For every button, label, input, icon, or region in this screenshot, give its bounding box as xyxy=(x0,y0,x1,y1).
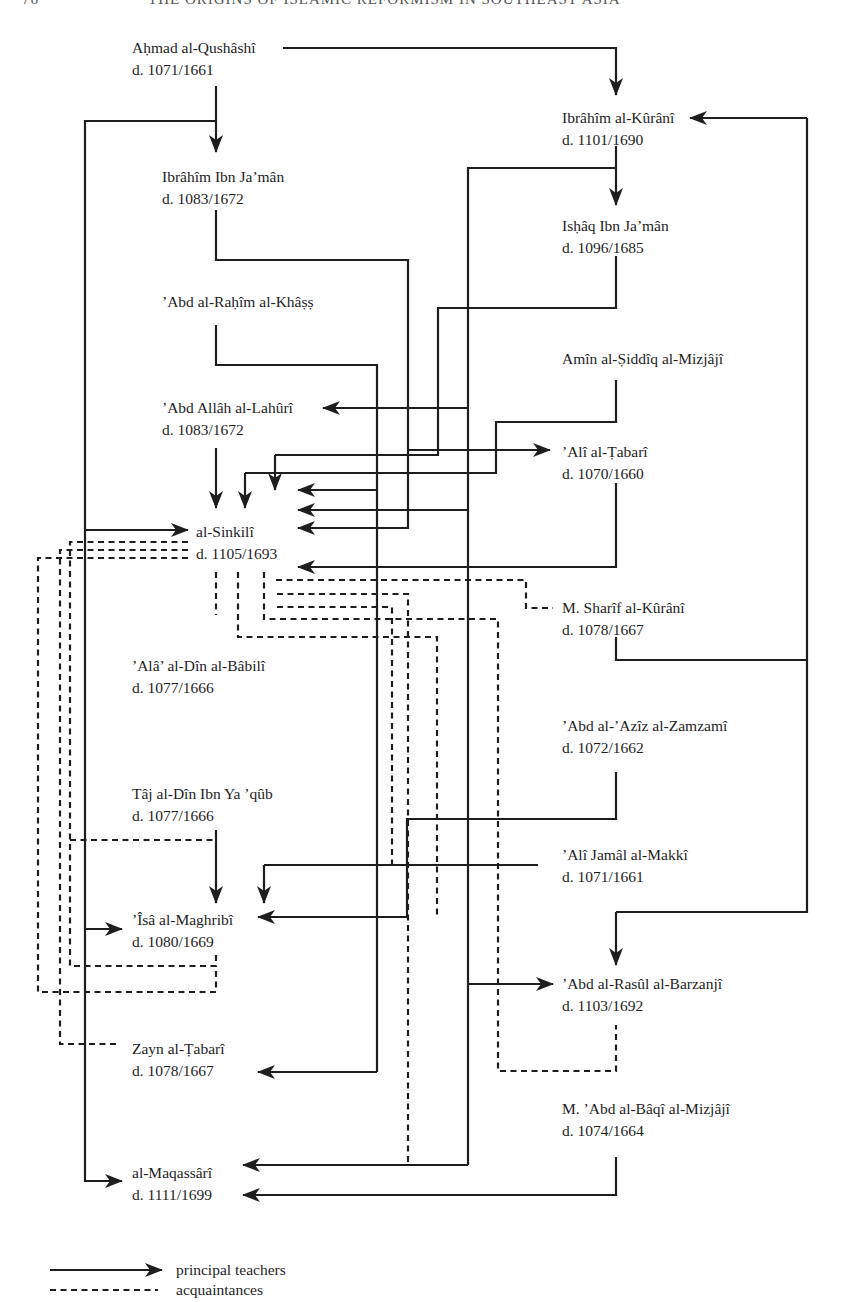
node-ibrahim-kurani: Ibrâhîm al-Kûrânî d. 1101/1690 xyxy=(562,109,675,148)
node-amin-mizjaji: Amîn al-Ṣiddîq al-Mizjâjî xyxy=(562,350,724,367)
node-death-date: d. 1071/1661 xyxy=(132,61,214,78)
node-name: ’Abd al-Raḥîm al-Khâṣṣ xyxy=(162,293,314,310)
link-qushashi-kurani xyxy=(283,48,616,95)
node-death-date: d. 1074/1664 xyxy=(562,1122,644,1139)
node-name: al-Sinkilî xyxy=(196,523,254,540)
link-amin-sinkili xyxy=(245,380,616,473)
node-abd-allah-lahuri: ’Abd Allâh al-Lahûrî d. 1083/1672 xyxy=(162,399,294,438)
node-name: M. Sharîf al-Kûrânî xyxy=(562,599,685,616)
node-ala-babili: ’Alâ’ al-Dîn al-Bâbilî d. 1077/1666 xyxy=(132,657,266,696)
node-qushashi: Aḥmad al-Qushâshî d. 1071/1661 xyxy=(132,39,256,78)
node-name: ’Abd al-Rasûl al-Barzanjî xyxy=(562,975,723,992)
dash-sinkili-isa-loop xyxy=(70,542,216,966)
node-ibrahim-ibn-jaman: Ibrâhîm Ibn Ja’mân d. 1083/1672 xyxy=(162,168,284,207)
link-sharif-barzanji xyxy=(616,660,807,912)
node-name: ’Alî Jamâl al-Makkî xyxy=(562,846,688,863)
node-name: ’Îsâ al-Maghribî xyxy=(132,911,234,928)
node-name: Amîn al-Ṣiddîq al-Mizjâjî xyxy=(562,350,724,367)
node-death-date: d. 1078/1667 xyxy=(562,621,644,638)
node-sharif-kurani: M. Sharîf al-Kûrânî d. 1078/1667 xyxy=(562,599,685,638)
node-name: Tâj al-Dîn Ibn Ya ’qûb xyxy=(132,785,273,802)
node-isa-maghribi: ’Îsâ al-Maghribî d. 1080/1669 xyxy=(132,911,234,950)
dash-sinkili-mid xyxy=(277,607,392,865)
node-death-date: d. 1111/1699 xyxy=(132,1186,212,1203)
dash-sinkili-maqassari xyxy=(277,594,408,1165)
node-death-date: d. 1096/1685 xyxy=(562,239,644,256)
node-death-date: d. 1103/1692 xyxy=(562,997,643,1014)
node-name: Isḥâq Ibn Ja’mân xyxy=(562,217,669,234)
node-name: M. ’Abd al-Bâqî al-Mizjâjî xyxy=(562,1100,731,1117)
node-death-date: d. 1078/1667 xyxy=(132,1062,214,1079)
node-death-date: d. 1071/1661 xyxy=(562,868,644,885)
node-name: al-Maqassârî xyxy=(132,1164,213,1181)
node-ali-jamal-makki: ’Alî Jamâl al-Makkî d. 1071/1661 xyxy=(562,846,688,885)
node-death-date: d. 1080/1669 xyxy=(132,933,214,950)
node-name: Ibrâhîm al-Kûrânî xyxy=(562,109,675,126)
node-labels: Aḥmad al-Qushâshî d. 1071/1661 Ibrâhîm a… xyxy=(132,39,731,1203)
link-qushashi-trunk xyxy=(85,121,216,1182)
principal-teacher-links xyxy=(85,48,807,1195)
node-name: ’Alî al-Ṭabarî xyxy=(562,443,648,460)
node-zayn-tabari: Zayn al-Ṭabarî d. 1078/1667 xyxy=(132,1040,225,1079)
node-taj-ibn-yaqub: Tâj al-Dîn Ibn Ya ’qûb d. 1077/1666 xyxy=(132,785,273,824)
node-death-date: d. 1077/1666 xyxy=(132,807,214,824)
node-name: Ibrâhîm Ibn Ja’mân xyxy=(162,168,284,185)
node-abd-aziz-zamzami: ’Abd al-’Azîz al-Zamzamî d. 1072/1662 xyxy=(562,717,728,756)
link-sharif-trunk xyxy=(616,118,807,660)
node-abd-baqi-mizjaji: M. ’Abd al-Bâqî al-Mizjâjî d. 1074/1664 xyxy=(562,1100,731,1139)
link-alitabari-sinkili xyxy=(298,483,616,567)
node-death-date: d. 1101/1690 xyxy=(562,131,643,148)
legend-acquaintance-label: acquaintances xyxy=(176,1281,263,1298)
node-sinkili: al-Sinkilî d. 1105/1693 xyxy=(196,523,277,562)
dash-sinkili-sharif xyxy=(276,580,553,608)
node-abd-rahim-khass: ’Abd al-Raḥîm al-Khâṣṣ xyxy=(162,293,314,310)
node-ishaq-ibn-jaman: Isḥâq Ibn Ja’mân d. 1096/1685 xyxy=(562,217,669,256)
node-name: Aḥmad al-Qushâshî xyxy=(132,39,256,56)
node-name: ’Abd al-’Azîz al-Zamzamî xyxy=(562,717,728,734)
link-zamzami-isa xyxy=(407,772,616,917)
node-name: ’Alâ’ al-Dîn al-Bâbilî xyxy=(132,657,266,674)
node-abd-rasul-barzanji: ’Abd al-Rasûl al-Barzanjî d. 1103/1692 xyxy=(562,975,723,1014)
node-death-date: d. 1072/1662 xyxy=(562,739,644,756)
node-death-date: d. 1105/1693 xyxy=(196,545,277,562)
node-maqassari: al-Maqassârî d. 1111/1699 xyxy=(132,1164,213,1203)
node-death-date: d. 1077/1666 xyxy=(132,679,214,696)
node-name: Zayn al-Ṭabarî xyxy=(132,1040,225,1057)
node-death-date: d. 1083/1672 xyxy=(162,421,244,438)
legend-principal-label: principal teachers xyxy=(176,1261,286,1278)
node-death-date: d. 1083/1672 xyxy=(162,190,244,207)
teacher-network-diagram: Aḥmad al-Qushâshî d. 1071/1661 Ibrâhîm a… xyxy=(0,0,843,1302)
link-baqi-maqassari xyxy=(243,1157,616,1195)
legend: principal teachers acquaintances xyxy=(50,1261,286,1298)
node-death-date: d. 1070/1660 xyxy=(562,465,644,482)
node-ali-tabari: ’Alî al-Ṭabarî d. 1070/1660 xyxy=(562,443,648,482)
node-name: ’Abd Allâh al-Lahûrî xyxy=(162,399,294,416)
